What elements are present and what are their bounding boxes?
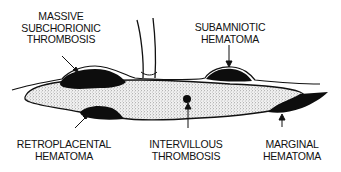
label-retroplacental-hematoma: RETROPLACENTAL HEMATOMA xyxy=(8,139,120,162)
intervillous-thrombosis-lesion xyxy=(183,95,191,103)
label-intervillous-thrombosis: INTERVILLOUS THROMBOSIS xyxy=(140,139,232,162)
label-subamniotic-hematoma: SUBAMNIOTIC HEMATOMA xyxy=(190,22,270,45)
umbilical-cord xyxy=(137,18,155,78)
label-massive-subchorionic-thrombosis: MASSIVE SUBCHORIONIC THROMBOSIS xyxy=(16,11,106,46)
label-marginal-hematoma: MARGINAL HEMATOMA xyxy=(256,139,328,162)
